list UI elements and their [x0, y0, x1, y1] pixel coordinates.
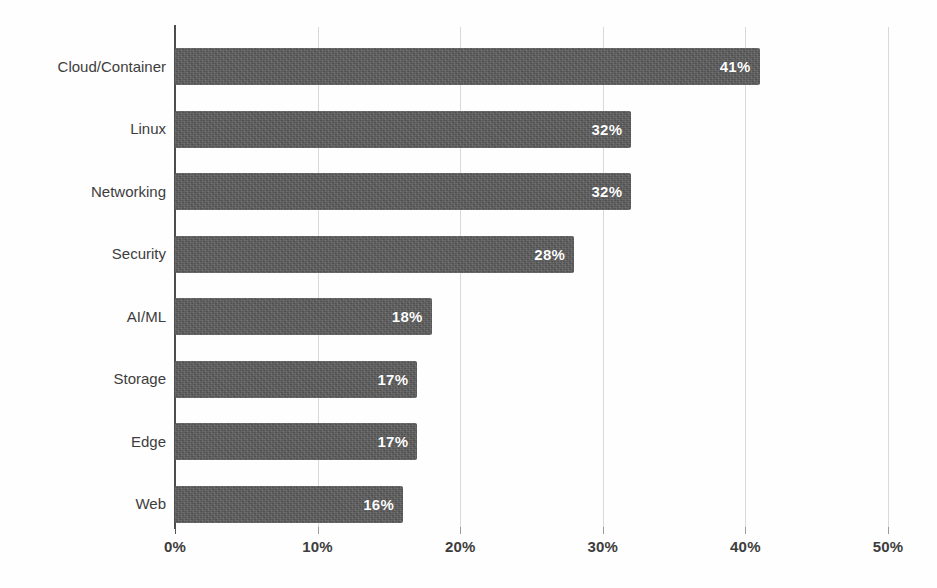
- x-tick-label: 40%: [710, 538, 780, 555]
- category-label: AI/ML: [0, 308, 166, 325]
- bar-value-label: 17%: [377, 361, 408, 398]
- bar: 17%: [175, 361, 417, 398]
- gridline-20%: [460, 27, 461, 527]
- bar: 32%: [175, 111, 631, 148]
- tick-mark: [745, 527, 746, 534]
- bar: 18%: [175, 298, 432, 335]
- bar: 17%: [175, 423, 417, 460]
- bar-chart: 41%Cloud/Container32%Linux32%Networking2…: [0, 0, 937, 588]
- tick-mark: [888, 527, 889, 534]
- bar-value-label: 32%: [591, 111, 622, 148]
- category-label: Storage: [0, 370, 166, 387]
- bar: 28%: [175, 236, 574, 273]
- category-label: Edge: [0, 433, 166, 450]
- x-tick-label: 0%: [140, 538, 210, 555]
- bar: 41%: [175, 48, 760, 85]
- category-label: Web: [0, 495, 166, 512]
- tick-mark: [318, 527, 319, 534]
- gridline-50%: [888, 27, 889, 527]
- category-label: Cloud/Container: [0, 58, 166, 75]
- gridline-40%: [745, 27, 746, 527]
- bar-value-label: 28%: [534, 236, 565, 273]
- bar-value-label: 41%: [720, 48, 751, 85]
- x-tick-label: 50%: [853, 538, 923, 555]
- gridline-30%: [603, 27, 604, 527]
- category-label: Linux: [0, 120, 166, 137]
- bar: 32%: [175, 173, 631, 210]
- bar-value-label: 16%: [363, 486, 394, 523]
- x-tick-label: 10%: [283, 538, 353, 555]
- tick-mark: [460, 527, 461, 534]
- bar-value-label: 32%: [591, 173, 622, 210]
- bar: 16%: [175, 486, 403, 523]
- category-label: Security: [0, 245, 166, 262]
- tick-mark: [175, 527, 176, 534]
- category-label: Networking: [0, 183, 166, 200]
- bar-value-label: 18%: [392, 298, 423, 335]
- bar-value-label: 17%: [377, 423, 408, 460]
- x-tick-label: 30%: [568, 538, 638, 555]
- tick-mark: [603, 527, 604, 534]
- x-tick-label: 20%: [425, 538, 495, 555]
